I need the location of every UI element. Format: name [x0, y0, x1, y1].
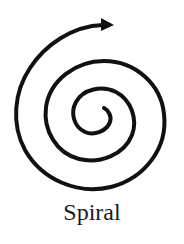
- caption: Spiral: [0, 199, 184, 226]
- spiral-figure: Spiral: [0, 0, 184, 244]
- arrow-head-icon: [101, 18, 114, 31]
- spiral-path: [16, 25, 164, 189]
